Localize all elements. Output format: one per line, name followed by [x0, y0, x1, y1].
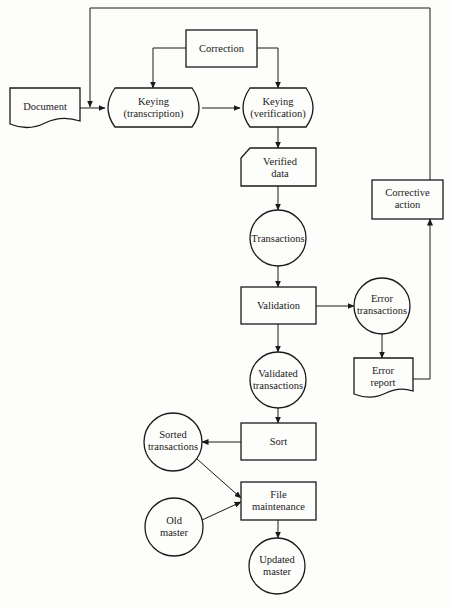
node-label-line1: Validated	[258, 368, 298, 379]
edge-error-report-to-corrective-action	[413, 219, 430, 379]
node-label-line1: Updated	[259, 554, 295, 565]
node-keying-verification: Keying (verification)	[243, 88, 313, 127]
node-label-line2: (verification)	[250, 108, 306, 120]
node-label: Transactions	[251, 233, 304, 244]
node-label-line1: Keying	[263, 96, 295, 107]
node-label-line2: maintenance	[252, 501, 305, 512]
node-label-line2: transactions	[148, 441, 198, 452]
edge-correction-to-keying-transcription	[153, 48, 186, 88]
node-correction: Correction	[186, 30, 257, 67]
flowchart-canvas: Document Correction Keying (transcriptio…	[0, 0, 452, 609]
node-old-master: Old master	[145, 498, 203, 556]
node-label-line2: report	[370, 377, 395, 388]
node-label-line1: Sorted	[159, 429, 187, 440]
node-sorted-transactions: Sorted transactions	[144, 413, 202, 471]
node-label-line2: (transcription)	[123, 108, 184, 120]
node-keying-transcription: Keying (transcription)	[108, 88, 199, 127]
node-error-report: Error report	[354, 358, 413, 397]
node-label-line2: master	[263, 566, 291, 577]
node-label-line2: action	[395, 199, 421, 210]
node-sort: Sort	[241, 423, 316, 460]
node-verified-data: Verified data	[241, 148, 316, 186]
node-error-transactions: Error transactions	[354, 278, 410, 334]
node-updated-master: Updated master	[249, 538, 305, 594]
node-label-line2: transactions	[253, 380, 303, 391]
card-shape-icon	[241, 148, 316, 186]
edge-sorted-to-file-maintenance	[197, 459, 241, 498]
node-label: Sort	[270, 436, 288, 447]
node-label: Document	[23, 101, 67, 112]
node-validated-transactions: Validated transactions	[250, 352, 306, 408]
node-label-line2: master	[160, 527, 188, 538]
node-label-line1: Error	[372, 365, 395, 376]
node-label-line1: Corrective	[385, 187, 430, 198]
node-label: Validation	[257, 300, 301, 311]
node-label-line1: File	[270, 489, 287, 500]
edge-correction-to-keying-verification	[257, 48, 278, 88]
node-label-line1: Keying	[138, 96, 170, 107]
node-label-line1: Verified	[263, 156, 298, 167]
node-file-maintenance: File maintenance	[241, 482, 316, 520]
node-transactions: Transactions	[250, 210, 306, 266]
node-label: Correction	[199, 43, 245, 54]
node-validation: Validation	[241, 287, 316, 324]
node-label-line2: data	[271, 168, 289, 179]
edge-old-master-to-file-maintenance	[202, 502, 241, 520]
node-label-line1: Old	[166, 515, 183, 526]
node-document: Document	[10, 88, 80, 127]
node-corrective-action: Corrective action	[372, 180, 443, 219]
node-label-line1: Error	[371, 293, 394, 304]
node-label-line2: transactions	[357, 305, 407, 316]
